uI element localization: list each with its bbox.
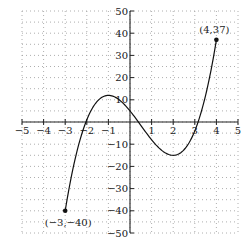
x-tick-label: 1 [148,125,154,136]
y-tick-label: 10 [115,94,128,105]
y-tick-label: −30 [107,183,128,194]
y-tick-label: 30 [115,50,128,61]
end-point-marker [214,38,219,43]
start-point-label: (−3,−40) [45,217,92,228]
x-tick-label: −5 [15,125,30,136]
y-tick-label: 50 [115,6,128,17]
x-tick-label: 4 [213,125,219,136]
y-tick-label: −20 [107,161,128,172]
y-tick-label: 20 [115,72,128,83]
x-tick-label: −4 [36,125,51,136]
x-tick-label: −1 [101,125,116,136]
y-tick-label: 40 [115,28,128,39]
y-tick-label: −10 [107,139,128,150]
x-tick-label: 2 [170,125,176,136]
function-graph: −5−4−3−2−1123455040302010−10−20−30−40−50… [0,0,246,250]
end-point-label: (4,37) [199,24,229,35]
y-tick-label: −50 [107,228,128,239]
y-tick-label: −40 [107,205,128,216]
x-tick-label: 5 [235,125,241,136]
x-tick-label: −3 [58,125,73,136]
start-point-marker [63,209,68,214]
